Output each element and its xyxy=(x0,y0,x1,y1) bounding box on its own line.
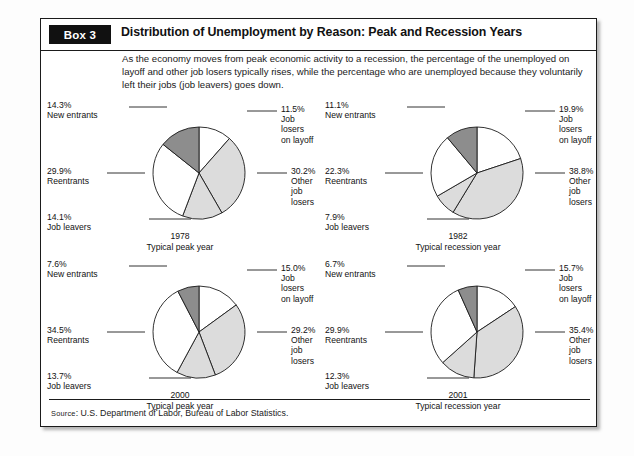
pie-slice-label: 35.4% Other job losers xyxy=(569,325,597,366)
pie-slice-label: 30.2% Other job losers xyxy=(291,166,319,207)
pie-slice-label: 19.9% Job losers on layoff xyxy=(559,104,597,145)
pie-panel-1978: 11.5% Job losers on layoff30.2% Other jo… xyxy=(41,89,319,249)
pie-panel-1982: 19.9% Job losers on layoff38.8% Other jo… xyxy=(319,89,597,249)
pie-panel-2000: 15.0% Job losers on layoff29.2% Other jo… xyxy=(41,248,319,408)
chart-year: 1978 xyxy=(41,231,319,242)
pie-panel-2001: 15.7% Job losers on layoff35.4% Other jo… xyxy=(319,248,597,408)
pie-slice-label: 15.7% Job losers on layoff xyxy=(559,263,597,304)
chart-subtitle: Typical recession year xyxy=(319,401,597,412)
chart-year: 1982 xyxy=(319,231,597,242)
box-header: Box 3 Distribution of Unemployment by Re… xyxy=(41,19,596,59)
pie-slice-label: 38.8% Other job losers xyxy=(569,166,597,207)
pie-slice-label: 13.7% Job leavers xyxy=(47,371,131,391)
source-text: : U.S. Department of Labor, Bureau of La… xyxy=(76,408,289,418)
box-panel: Box 3 Distribution of Unemployment by Re… xyxy=(40,18,597,427)
pie-slice-label: 22.3% Reentrants xyxy=(325,166,409,186)
box-intro-paragraph: As the economy moves from peak economic … xyxy=(122,52,588,92)
pie-slice-label: 15.0% Job losers on layoff xyxy=(281,263,319,304)
pie-slice-label: 29.9% Reentrants xyxy=(47,166,131,186)
source-label: Source xyxy=(51,409,76,418)
header-divider xyxy=(41,50,596,51)
pie-slice-label: 12.3% Job leavers xyxy=(325,371,409,391)
source-note: Source: U.S. Department of Labor, Bureau… xyxy=(51,408,288,418)
screenshot-root: Box 3 Distribution of Unemployment by Re… xyxy=(0,0,634,456)
pie-slice-label: 14.1% Job leavers xyxy=(47,212,131,232)
pie-slice-label: 11.5% Job losers on layoff xyxy=(281,104,319,145)
pie-slice-label: 14.3% New entrants xyxy=(47,100,131,120)
pie-slice-label: 7.9% Job leavers xyxy=(325,212,409,232)
pie-slice-label: 11.1% New entrants xyxy=(325,100,409,120)
box-title: Distribution of Unemployment by Reason: … xyxy=(121,25,522,39)
pie-slice-label: 6.7% New entrants xyxy=(325,259,409,279)
pie-slice-label: 29.2% Other job losers xyxy=(291,325,319,366)
pie-slice-label: 7.6% New entrants xyxy=(47,259,131,279)
pie-slice-label: 29.9% Reentrants xyxy=(325,325,409,345)
pie-slice-label: 34.5% Reentrants xyxy=(47,325,131,345)
box-number-tag: Box 3 xyxy=(49,25,111,44)
source-divider xyxy=(49,399,590,400)
chart-caption: 2001Typical recession year xyxy=(319,390,597,412)
